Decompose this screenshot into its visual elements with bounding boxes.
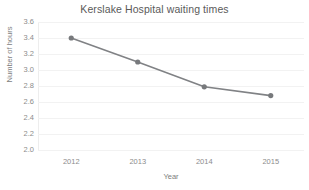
series-markers — [69, 35, 274, 98]
y-axis-tick-label: 2.4 — [8, 114, 34, 122]
y-axis-tick-label: 3.0 — [8, 66, 34, 74]
y-axis-tick-label: 2.6 — [8, 98, 34, 106]
y-axis-tick-label: 3.2 — [8, 50, 34, 58]
data-point-marker — [202, 84, 207, 89]
y-axis-tick-labels: 3.63.43.23.02.82.62.42.22.0 — [4, 22, 34, 150]
y-axis-tick-label: 3.4 — [8, 34, 34, 42]
gridline — [38, 150, 304, 151]
line-series — [38, 22, 304, 150]
data-point-marker — [69, 35, 74, 40]
chart-title: Kerslake Hospital waiting times — [0, 3, 309, 15]
x-axis-title: Year — [38, 172, 304, 181]
x-axis-tick-label: 2013 — [129, 157, 146, 166]
y-axis-tick-label: 2.0 — [8, 146, 34, 154]
x-axis-tick-label: 2014 — [196, 157, 213, 166]
data-point-marker — [135, 59, 140, 64]
y-axis-tick-label: 2.2 — [8, 130, 34, 138]
x-axis-tick-label: 2015 — [262, 157, 279, 166]
data-point-marker — [268, 93, 273, 98]
x-axis-tick-labels: 2012201320142015 — [38, 157, 304, 167]
y-axis-tick-label: 2.8 — [8, 82, 34, 90]
plot-area — [38, 22, 304, 150]
series-polyline — [71, 38, 271, 96]
chart-container: Kerslake Hospital waiting times Number o… — [0, 0, 309, 190]
x-axis-tick-label: 2012 — [63, 157, 80, 166]
y-axis-tick-label: 3.6 — [8, 18, 34, 26]
